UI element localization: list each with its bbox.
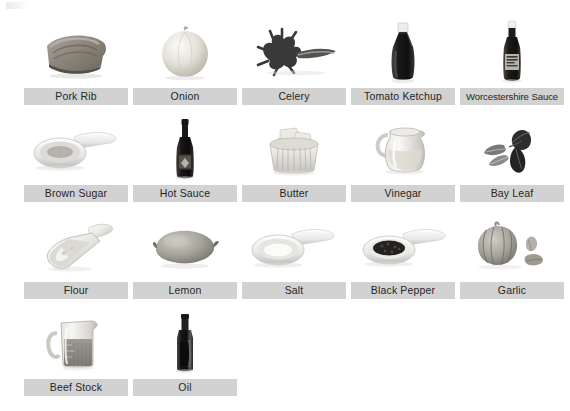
- ingredient-label: Bay Leaf: [460, 185, 564, 202]
- ingredient-label: Celery: [242, 88, 346, 105]
- ingredient-label: Oil: [133, 379, 237, 396]
- flour-scoop-icon: [24, 212, 128, 282]
- ingredient-label: Butter: [242, 185, 346, 202]
- beef-stock-jug-icon: [24, 309, 128, 379]
- onion-icon: [133, 18, 237, 88]
- ingredient-cell-celery[interactable]: Celery: [242, 8, 346, 105]
- bay-leaf-icon: [460, 115, 564, 185]
- ingredient-cell-black-pepper[interactable]: Black Pepper: [351, 202, 455, 299]
- ingredient-cell-vinegar[interactable]: Vinegar: [351, 105, 455, 202]
- ingredient-label: Flour: [24, 282, 128, 299]
- ingredient-cell-oil[interactable]: Oil: [133, 299, 237, 396]
- ingredient-cell-onion[interactable]: Onion: [133, 8, 237, 105]
- ingredient-label: Beef Stock: [24, 379, 128, 396]
- ingredient-cell-brown-sugar[interactable]: Brown Sugar: [24, 105, 128, 202]
- ingredient-label: Worcestershire Sauce: [460, 88, 564, 105]
- ingredient-cell-bay-leaf[interactable]: Bay Leaf: [460, 105, 564, 202]
- ingredient-cell-salt[interactable]: Salt: [242, 202, 346, 299]
- ingredient-label: Salt: [242, 282, 346, 299]
- ingredient-cell-pork-rib[interactable]: Pork Rib: [24, 8, 128, 105]
- ingredient-label: Lemon: [133, 282, 237, 299]
- ingredient-label: Brown Sugar: [24, 185, 128, 202]
- ingredient-cell-flour[interactable]: Flour: [24, 202, 128, 299]
- ingredient-label: Garlic: [460, 282, 564, 299]
- garlic-icon: [460, 212, 564, 282]
- ingredient-cell-hot-sauce[interactable]: Hot Sauce: [133, 105, 237, 202]
- hot-sauce-bottle-icon: [133, 115, 237, 185]
- butter-ramekin-icon: [242, 115, 346, 185]
- ingredient-label: Vinegar: [351, 185, 455, 202]
- ingredient-cell-butter[interactable]: Butter: [242, 105, 346, 202]
- ingredient-label: Onion: [133, 88, 237, 105]
- pork-rib-icon: [24, 18, 128, 88]
- ingredient-cell-lemon[interactable]: Lemon: [133, 202, 237, 299]
- ingredient-grid: Pork Rib Onion: [24, 8, 570, 396]
- brown-sugar-spoon-icon: [24, 115, 128, 185]
- ingredient-label: Hot Sauce: [133, 185, 237, 202]
- ketchup-bottle-icon: [351, 18, 455, 88]
- ingredient-cell-worcestershire-sauce[interactable]: Worcestershire Sauce: [460, 8, 564, 105]
- ingredient-cell-beef-stock[interactable]: Beef Stock: [24, 299, 128, 396]
- oil-bottle-icon: [133, 309, 237, 379]
- vinegar-pitcher-icon: [351, 115, 455, 185]
- ingredient-cell-tomato-ketchup[interactable]: Tomato Ketchup: [351, 8, 455, 105]
- ingredient-cell-garlic[interactable]: Garlic: [460, 202, 564, 299]
- ingredient-label: Black Pepper: [351, 282, 455, 299]
- ingredient-label: Pork Rib: [24, 88, 128, 105]
- lemon-icon: [133, 212, 237, 282]
- black-pepper-spoon-icon: [351, 212, 455, 282]
- salt-spoon-icon: [242, 212, 346, 282]
- worcestershire-bottle-icon: [460, 18, 564, 88]
- celery-icon: [242, 18, 346, 88]
- ingredient-label: Tomato Ketchup: [351, 88, 455, 105]
